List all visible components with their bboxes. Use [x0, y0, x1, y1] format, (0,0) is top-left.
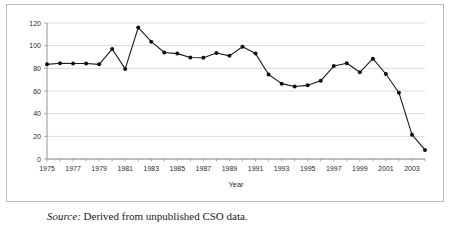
y-tick-label-40: 40 — [33, 110, 41, 117]
data-point-1983 — [149, 40, 153, 44]
data-point-1990 — [241, 45, 245, 49]
x-tick-label-2003: 2003 — [404, 165, 420, 172]
data-point-1987 — [201, 56, 205, 60]
x-tick-label-1985: 1985 — [170, 165, 186, 172]
x-tick-label-1987: 1987 — [196, 165, 212, 172]
y-tick-label-60: 60 — [33, 88, 41, 95]
tick-marks-group — [44, 23, 425, 162]
data-point-2003 — [410, 133, 414, 137]
x-tick-label-1991: 1991 — [248, 165, 264, 172]
y-tick-label-20: 20 — [33, 133, 41, 140]
data-point-1986 — [188, 56, 192, 60]
source-label: Source: — [47, 210, 81, 222]
x-tick-label-1999: 1999 — [352, 165, 368, 172]
x-tick-label-1995: 1995 — [300, 165, 316, 172]
data-point-1993 — [280, 82, 284, 86]
data-point-1985 — [175, 52, 179, 56]
data-point-2004 — [423, 148, 427, 152]
data-point-1976 — [58, 61, 62, 65]
axis-title-group: Year — [228, 180, 244, 189]
x-axis-title: Year — [228, 180, 244, 189]
data-point-1994 — [293, 84, 297, 88]
data-point-2002 — [397, 91, 401, 95]
source-note: Source: Derived from unpublished CSO dat… — [47, 210, 248, 222]
data-point-1979 — [97, 62, 101, 66]
data-point-1984 — [162, 50, 166, 54]
data-point-1998 — [345, 61, 349, 65]
x-tick-label-1979: 1979 — [91, 165, 107, 172]
data-point-1978 — [84, 61, 88, 65]
x-tick-label-1989: 1989 — [222, 165, 238, 172]
chart-frame: 020406080100120 197519771979198119831985… — [6, 4, 444, 202]
figure-container: 020406080100120 197519771979198119831985… — [0, 0, 458, 232]
data-point-2000 — [371, 57, 375, 61]
data-point-1996 — [319, 79, 323, 83]
x-tick-labels-group: 1975197719791981198319851987198919911993… — [39, 165, 420, 172]
x-tick-label-1997: 1997 — [326, 165, 342, 172]
x-tick-label-1983: 1983 — [143, 165, 159, 172]
data-point-1995 — [306, 83, 310, 87]
data-point-1977 — [71, 61, 75, 65]
data-point-1999 — [358, 70, 362, 74]
y-tick-labels-group: 020406080100120 — [29, 20, 41, 163]
y-tick-label-120: 120 — [29, 20, 41, 27]
x-tick-label-1993: 1993 — [274, 165, 290, 172]
series-group — [45, 26, 427, 152]
data-point-1991 — [254, 52, 258, 56]
data-point-1997 — [332, 64, 336, 68]
data-point-2001 — [384, 72, 388, 76]
data-point-1980 — [110, 47, 114, 51]
x-tick-label-1977: 1977 — [65, 165, 81, 172]
y-tick-label-0: 0 — [37, 156, 41, 163]
data-point-1988 — [214, 51, 218, 55]
line-chart-plot: 020406080100120 197519771979198119831985… — [7, 5, 443, 201]
source-description: Derived from unpublished CSO data. — [84, 210, 248, 222]
data-point-1981 — [123, 67, 127, 71]
y-tick-label-80: 80 — [33, 65, 41, 72]
x-tick-label-2001: 2001 — [378, 165, 394, 172]
data-point-1989 — [227, 54, 231, 58]
x-tick-label-1981: 1981 — [117, 165, 133, 172]
x-tick-label-1975: 1975 — [39, 165, 55, 172]
y-tick-label-100: 100 — [29, 42, 41, 49]
gridlines-group — [47, 23, 425, 159]
data-point-1992 — [267, 73, 271, 77]
data-point-1982 — [136, 26, 140, 30]
data-point-1975 — [45, 62, 49, 66]
